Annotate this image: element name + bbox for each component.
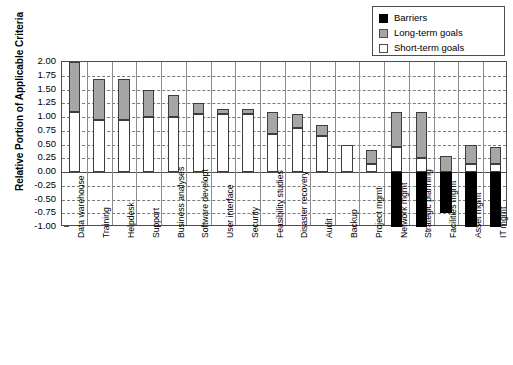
y-axis-title: Relative Portion of Applicable Criteria xyxy=(14,0,25,207)
bar-segment-long-term[interactable] xyxy=(366,150,377,164)
x-axis-tick-label: Support xyxy=(152,208,161,238)
bar-segment-short-term[interactable] xyxy=(93,120,104,172)
bar-segment-long-term[interactable] xyxy=(490,147,501,164)
legend-item[interactable]: Long-term goals xyxy=(379,26,499,40)
bar-segment-long-term[interactable] xyxy=(416,112,427,159)
legend-swatch-barr xyxy=(379,14,388,23)
gridline-x xyxy=(112,62,113,225)
bar-segment-short-term[interactable] xyxy=(69,112,80,173)
gridline-x xyxy=(409,62,410,225)
gridline-x xyxy=(87,62,88,225)
bar-segment-short-term[interactable] xyxy=(465,164,476,172)
legend-item[interactable]: Short-term goals xyxy=(379,41,499,55)
gridline-x xyxy=(458,62,459,225)
gridline-x xyxy=(483,62,484,225)
x-axis-tick-label: Feasibility studies xyxy=(276,170,285,238)
legend-swatch-long xyxy=(379,29,388,38)
x-axis-tick-label: Network mgmt xyxy=(400,183,409,238)
bar-segment-short-term[interactable] xyxy=(118,120,129,172)
bar-segment-short-term[interactable] xyxy=(168,117,179,172)
legend-swatch-short xyxy=(379,44,388,53)
x-axis-tick-label: Asset mgmt xyxy=(474,193,483,238)
bar-stack[interactable] xyxy=(143,62,154,227)
bar-segment-long-term[interactable] xyxy=(217,109,228,115)
bar-segment-long-term[interactable] xyxy=(465,145,476,164)
gridline-x xyxy=(136,62,137,225)
bar-segment-short-term[interactable] xyxy=(341,145,352,173)
bar-segment-short-term[interactable] xyxy=(391,147,402,172)
x-axis-tick-label: Helpdesk xyxy=(127,202,136,238)
bar-segment-long-term[interactable] xyxy=(316,125,327,136)
bar-stack[interactable] xyxy=(341,62,352,227)
x-axis-tick-label: Business analyses xyxy=(177,167,186,238)
x-axis-tick-label: User interface xyxy=(226,185,235,239)
bar-segment-short-term[interactable] xyxy=(217,114,228,172)
gridline-x xyxy=(186,62,187,225)
gridline-x xyxy=(161,62,162,225)
legend-label: Long-term goals xyxy=(394,28,463,38)
gridline-x xyxy=(235,62,236,225)
y-axis-tick-label: -0.75 xyxy=(12,207,56,217)
bar-segment-long-term[interactable] xyxy=(242,109,253,115)
bar-segment-short-term[interactable] xyxy=(366,164,377,172)
legend-item[interactable]: Barriers xyxy=(379,11,499,25)
x-axis-tick-label: Project mgmt xyxy=(375,187,384,238)
gridline-x xyxy=(335,62,336,225)
bar-segment-long-term[interactable] xyxy=(440,156,451,173)
bar-segment-short-term[interactable] xyxy=(143,117,154,172)
bar-segment-short-term[interactable] xyxy=(267,134,278,173)
gridline-x xyxy=(310,62,311,225)
bar-segment-long-term[interactable] xyxy=(267,112,278,134)
gridline-x xyxy=(434,62,435,225)
bar-stack[interactable] xyxy=(316,62,327,227)
bar-stack[interactable] xyxy=(93,62,104,227)
x-axis-tick-label: Audit xyxy=(325,218,334,238)
x-axis-tick-label: IT mgmt xyxy=(499,207,508,238)
x-axis-tick-label: Backup xyxy=(350,209,359,238)
bar-segment-long-term[interactable] xyxy=(118,79,129,120)
x-axis-tick-label: Software developt xyxy=(201,169,210,238)
bar-stack[interactable] xyxy=(490,62,501,227)
bar-segment-long-term[interactable] xyxy=(292,114,303,128)
bar-segment-short-term[interactable] xyxy=(242,114,253,172)
x-axis-tick-label: Training xyxy=(102,207,111,238)
gridline-x xyxy=(359,62,360,225)
gridline-x xyxy=(384,62,385,225)
bar-segment-long-term[interactable] xyxy=(143,90,154,118)
bar-segment-long-term[interactable] xyxy=(391,112,402,148)
bar-segment-long-term[interactable] xyxy=(193,103,204,114)
y-axis-tick-label: -1.00 xyxy=(12,221,56,231)
bar-segment-short-term[interactable] xyxy=(490,164,501,172)
bar-stack[interactable] xyxy=(242,62,253,227)
bar-segment-short-term[interactable] xyxy=(292,128,303,172)
legend-label: Short-term goals xyxy=(394,43,464,53)
x-axis-tick-label: Data warehouse xyxy=(77,175,86,238)
chart-legend: BarriersLong-term goalsShort-term goals xyxy=(372,6,505,56)
bar-segment-long-term[interactable] xyxy=(69,62,80,112)
gridline-x xyxy=(211,62,212,225)
gridline-x xyxy=(285,62,286,225)
bar-segment-short-term[interactable] xyxy=(193,114,204,172)
x-axis-tick-label: Facilities mgmt xyxy=(449,181,458,238)
bar-segment-long-term[interactable] xyxy=(93,79,104,120)
x-axis-tick-label: Disaster recovery xyxy=(300,171,309,238)
gridline-x xyxy=(260,62,261,225)
bar-segment-short-term[interactable] xyxy=(316,136,327,172)
bar-segment-long-term[interactable] xyxy=(168,95,179,117)
x-axis-tick-label: Security xyxy=(251,207,260,238)
stacked-bar-chart: 2.001.751.501.251.000.750.500.250.00-0.2… xyxy=(0,0,513,365)
x-axis-tick-label: Strategic planning xyxy=(424,169,433,238)
legend-label: Barriers xyxy=(394,13,427,23)
